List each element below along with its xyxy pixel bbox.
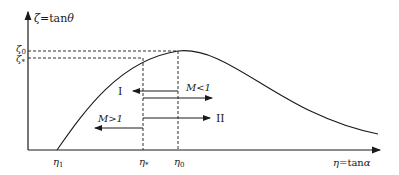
eta1-label: η1	[53, 156, 63, 169]
mach-lt-1-label: M<1	[185, 82, 211, 93]
diagram-canvas: ζ=tanθ η=tanα ζ0 ζ* η1 η* η0 I M<1 M>1 I…	[0, 0, 399, 175]
mach-gt-1-label: M>1	[97, 113, 123, 124]
region-II-label: II	[216, 112, 225, 125]
eta0-label: η0	[174, 156, 184, 169]
region-I-label: I	[118, 85, 122, 98]
x-axis-label: η=tanα	[333, 157, 371, 168]
etastar-label: η*	[139, 156, 149, 169]
y-axis-label: ζ=tanθ	[34, 12, 74, 25]
zeta-eta-curve	[57, 51, 378, 150]
